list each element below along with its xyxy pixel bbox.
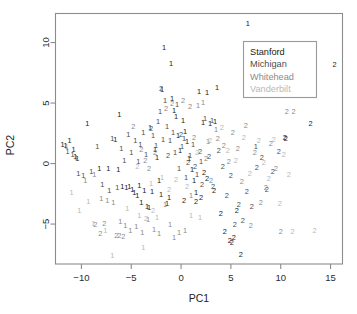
data-point: 2 [166, 151, 170, 160]
data-point: 1 [139, 198, 143, 207]
data-point: 1 [140, 228, 144, 237]
data-point: 1 [198, 213, 202, 222]
data-point: 1 [246, 19, 250, 28]
data-point: 2 [98, 229, 102, 238]
data-point: 2 [279, 227, 283, 236]
data-point: 2 [231, 128, 235, 137]
data-point: 1 [110, 251, 114, 260]
data-point: 1 [105, 196, 109, 205]
data-point: 2 [250, 202, 254, 211]
data-point: 2 [249, 221, 253, 230]
data-point: 1 [203, 114, 207, 123]
data-point: 2 [236, 144, 240, 153]
data-point: 2 [144, 214, 148, 223]
y-tick-label: 5 [40, 100, 51, 105]
data-point: 2 [185, 182, 189, 191]
data-point: 2 [232, 233, 236, 242]
data-point: 1 [86, 197, 90, 206]
data-point: 1 [189, 191, 193, 200]
data-point: 1 [169, 59, 173, 68]
data-point: 2 [291, 227, 295, 236]
data-point: 2 [264, 183, 268, 192]
data-point: 1 [152, 225, 156, 234]
data-point: 1 [137, 211, 141, 220]
data-point: 1 [97, 164, 101, 173]
data-point: 2 [121, 232, 125, 241]
data-point: 2 [239, 250, 243, 259]
data-point: 1 [197, 87, 201, 96]
data-point: 2 [313, 226, 317, 235]
data-point: 2 [282, 150, 286, 159]
y-tick-label: −5 [40, 219, 51, 230]
data-point: 2 [164, 104, 168, 113]
data-point: 2 [287, 170, 291, 179]
legend-entry-whitehead: Whitehead [250, 72, 294, 82]
data-point: 2 [151, 206, 155, 215]
data-point: 1 [100, 180, 104, 189]
data-point: 1 [99, 194, 103, 203]
data-point: 1 [91, 219, 95, 228]
data-point: 2 [267, 174, 271, 183]
data-point: 2 [277, 147, 281, 156]
data-point: 2 [309, 119, 313, 128]
data-point: 1 [141, 128, 145, 137]
data-point: 1 [160, 173, 164, 182]
data-point: 1 [180, 142, 184, 151]
data-point: 1 [210, 116, 214, 125]
legend-entry-michigan: Michigan [250, 59, 287, 69]
data-point: 2 [223, 227, 227, 236]
data-point: 2 [225, 191, 229, 200]
data-point: 2 [194, 197, 198, 206]
data-point: 2 [234, 156, 238, 165]
data-point: 2 [139, 145, 143, 154]
data-point: 2 [167, 185, 171, 194]
data-point: 1 [107, 186, 111, 195]
data-point: 1 [116, 165, 120, 174]
data-point: 1 [199, 157, 203, 166]
data-point: 1 [163, 200, 167, 209]
x-tick-label: 5 [228, 272, 233, 283]
data-point: 1 [128, 226, 132, 235]
data-point: 2 [245, 187, 249, 196]
data-point: 1 [157, 229, 161, 238]
data-point: 1 [123, 221, 127, 230]
data-point: 2 [170, 99, 174, 108]
data-point: 2 [332, 60, 336, 69]
data-point: 2 [179, 130, 183, 139]
data-point: 2 [135, 162, 139, 171]
data-point: 1 [195, 170, 199, 179]
data-point: 1 [150, 187, 154, 196]
data-point: 2 [229, 171, 233, 180]
data-point: 2 [274, 164, 278, 173]
data-point: 1 [149, 179, 153, 188]
legend-entry-stanford: Stanford [250, 47, 285, 57]
data-point: 1 [155, 213, 159, 222]
data-point: 1 [141, 243, 145, 252]
data-point: 2 [285, 107, 289, 116]
data-point: 1 [103, 226, 107, 235]
data-point: 2 [226, 146, 230, 155]
data-point: 1 [74, 153, 78, 162]
data-point: 1 [92, 170, 96, 179]
data-point: 1 [181, 116, 185, 125]
data-point: 2 [131, 122, 135, 131]
data-point: 1 [165, 122, 169, 131]
data-point: 1 [215, 83, 219, 92]
data-point: 2 [182, 196, 186, 205]
data-point: 1 [77, 206, 81, 215]
data-point: 1 [126, 130, 130, 139]
data-point: 1 [125, 204, 129, 213]
data-point: 1 [168, 136, 172, 145]
data-point: 1 [110, 134, 114, 143]
data-point: 2 [174, 175, 178, 184]
y-axis-title: PC2 [4, 135, 16, 156]
data-point: 2 [153, 148, 157, 157]
data-point: 1 [83, 176, 87, 185]
data-point: 2 [219, 209, 223, 218]
data-point: 2 [216, 134, 220, 143]
data-point: 2 [272, 135, 276, 144]
x-tick-label: −10 [73, 272, 89, 283]
data-point: 1 [183, 226, 187, 235]
data-point: 1 [172, 233, 176, 242]
x-axis-title: PC1 [189, 292, 210, 304]
